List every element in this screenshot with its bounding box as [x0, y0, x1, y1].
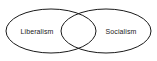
- venn-label-liberalism: Liberalism: [21, 28, 54, 35]
- venn-label-socialism: Socialism: [106, 28, 137, 35]
- venn-diagram-canvas: Liberalism Socialism: [0, 0, 157, 61]
- venn-diagram-figure: Liberalism Socialism: [0, 0, 157, 61]
